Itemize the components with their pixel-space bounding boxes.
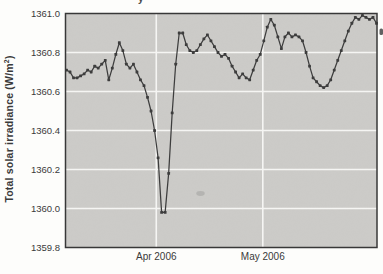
- data-point: [129, 67, 132, 70]
- data-point: [217, 51, 220, 54]
- data-point: [164, 211, 167, 214]
- data-point: [210, 39, 213, 42]
- data-point: [157, 156, 160, 159]
- data-point: [305, 51, 308, 54]
- scan-speck: [380, 29, 383, 36]
- data-point: [199, 43, 202, 46]
- plot-area: [0, 0, 383, 274]
- x-tick-label: May 2006: [228, 251, 298, 263]
- data-point: [150, 110, 153, 113]
- data-point: [357, 18, 360, 21]
- data-point: [83, 73, 86, 76]
- data-point: [319, 84, 322, 87]
- data-point: [114, 53, 117, 56]
- data-point: [174, 63, 177, 66]
- data-point: [90, 71, 93, 74]
- data-point: [234, 71, 237, 74]
- data-point: [202, 37, 205, 40]
- x-tick-label: Apr 2006: [121, 251, 191, 263]
- data-point: [86, 69, 89, 72]
- data-point: [143, 84, 146, 87]
- data-point: [276, 36, 279, 39]
- data-point: [252, 69, 255, 72]
- data-point: [298, 36, 301, 39]
- data-point: [365, 16, 368, 19]
- data-point: [125, 63, 128, 66]
- data-point: [245, 76, 248, 79]
- solar-irradiance-figure: y Total solar irradiance (W/m2) 1361.013…: [0, 0, 383, 274]
- data-point: [347, 30, 350, 33]
- data-point: [322, 86, 325, 89]
- data-point: [368, 18, 371, 21]
- data-point: [343, 39, 346, 42]
- data-point: [255, 59, 258, 62]
- data-point: [132, 63, 135, 66]
- y-tick-label: 1360.8: [0, 47, 60, 58]
- data-point: [97, 67, 100, 70]
- data-point: [372, 16, 375, 19]
- data-point: [238, 76, 241, 79]
- data-point: [315, 80, 318, 83]
- data-point: [188, 49, 191, 52]
- data-point: [118, 41, 121, 44]
- data-point: [192, 51, 195, 54]
- data-point: [171, 112, 174, 115]
- data-point: [213, 45, 216, 48]
- data-point: [329, 78, 332, 81]
- data-point: [340, 49, 343, 52]
- data-point: [107, 78, 110, 81]
- data-point: [178, 32, 181, 35]
- y-tick-label: 1360.2: [0, 164, 60, 175]
- data-point: [121, 49, 124, 52]
- data-point: [153, 129, 156, 132]
- data-point: [361, 14, 364, 17]
- data-point: [308, 65, 311, 68]
- data-point: [185, 43, 188, 46]
- data-point: [220, 55, 223, 58]
- data-point: [104, 59, 107, 62]
- data-point: [241, 73, 244, 76]
- data-point: [76, 76, 79, 79]
- data-point: [280, 47, 283, 50]
- scan-smudge: [196, 191, 204, 196]
- data-point: [195, 49, 198, 52]
- data-point: [72, 76, 75, 79]
- data-point: [287, 32, 290, 35]
- data-point: [111, 67, 114, 70]
- y-tick-label: 1360.6: [0, 86, 60, 97]
- data-point: [259, 53, 262, 56]
- data-point: [93, 65, 96, 68]
- data-point: [139, 78, 142, 81]
- data-point: [291, 36, 294, 39]
- data-point: [326, 84, 329, 87]
- data-point: [350, 22, 353, 25]
- data-point: [312, 76, 315, 79]
- data-point: [160, 211, 163, 214]
- data-point: [336, 59, 339, 62]
- data-point: [301, 39, 304, 42]
- data-point: [231, 65, 234, 68]
- data-point: [167, 172, 170, 175]
- data-point: [294, 34, 297, 37]
- data-point: [284, 36, 287, 39]
- y-tick-label: 1359.8: [0, 242, 60, 253]
- data-point: [269, 18, 272, 21]
- data-point: [69, 71, 72, 74]
- data-point: [136, 71, 139, 74]
- data-point: [354, 16, 357, 19]
- data-point: [79, 75, 82, 78]
- data-point: [273, 24, 276, 27]
- data-point: [224, 53, 227, 56]
- data-point: [266, 26, 269, 29]
- data-point: [206, 34, 209, 37]
- data-point: [100, 63, 103, 66]
- data-point: [181, 32, 184, 35]
- data-point: [248, 78, 251, 81]
- y-tick-label: 1361.0: [0, 8, 60, 19]
- data-point: [333, 69, 336, 72]
- data-point: [227, 57, 230, 60]
- data-point: [146, 96, 149, 99]
- data-point: [262, 39, 265, 42]
- y-tick-label: 1360.4: [0, 125, 60, 136]
- y-tick-label: 1360.0: [0, 203, 60, 214]
